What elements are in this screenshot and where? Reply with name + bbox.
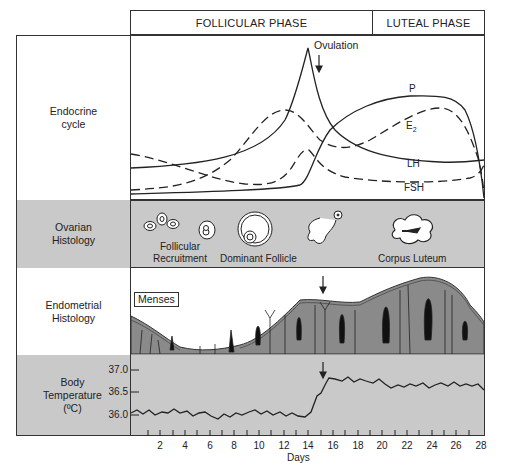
- secondary-follicle-icon: [199, 221, 215, 239]
- follicular-recruitment-icon: [144, 213, 179, 231]
- p-curve: [131, 96, 484, 198]
- day-tick-22: 22: [397, 440, 417, 451]
- day-ticks: [148, 430, 469, 436]
- temp-tick-37-0: 37.0: [98, 364, 128, 375]
- temp-tick-36-5: 36.5: [98, 386, 128, 397]
- day-tick-24: 24: [422, 440, 442, 451]
- fsh-curve: [131, 150, 484, 185]
- ovulating-follicle-icon: [308, 211, 342, 243]
- temperature-line: [131, 377, 484, 419]
- corpus-luteum-icon: [392, 215, 432, 244]
- diagram-graphics: [0, 0, 511, 475]
- day-tick-18: 18: [348, 440, 368, 451]
- day-tick-16: 16: [323, 440, 343, 451]
- day-tick-8: 8: [224, 440, 244, 451]
- day-tick-2: 2: [150, 440, 170, 451]
- temp-tick-36-0: 36.0: [98, 409, 128, 420]
- follicular-recruitment-label: Follicular Recruitment: [142, 241, 218, 265]
- ovulation-label: Ovulation: [314, 39, 358, 51]
- day-tick-10: 10: [249, 440, 269, 451]
- dominant-follicle-icon: [238, 212, 272, 246]
- e2-label-sub: 2: [413, 126, 417, 133]
- day-tick-4: 4: [175, 440, 195, 451]
- temperature-ovulation-arrow-icon: [320, 362, 326, 378]
- day-tick-20: 20: [372, 440, 392, 451]
- lh-curve-label: LH: [407, 158, 420, 169]
- day-tick-28: 28: [471, 440, 491, 451]
- menses-label: Menses: [134, 292, 179, 307]
- dominant-follicle-label: Dominant Follicle: [220, 253, 297, 264]
- temperature-axis: [131, 370, 139, 415]
- day-tick-14: 14: [298, 440, 318, 451]
- endometrial-ovulation-arrow-icon: [320, 276, 326, 293]
- corpus-luteum-label: Corpus Luteum: [378, 253, 446, 264]
- day-tick-6: 6: [200, 440, 220, 451]
- day-tick-26: 26: [446, 440, 466, 451]
- x-axis-label: Days: [287, 452, 310, 463]
- fsh-curve-label: FSH: [404, 182, 424, 193]
- endometrium-illustration: [131, 277, 484, 354]
- ovulation-arrow-icon: [316, 55, 322, 72]
- lh-curve: [131, 48, 484, 168]
- e2-curve-label: E2: [406, 120, 417, 133]
- day-tick-12: 12: [274, 440, 294, 451]
- endocrine-chart: [131, 48, 484, 198]
- p-curve-label: P: [409, 83, 416, 94]
- e2-label-main: E: [406, 120, 413, 131]
